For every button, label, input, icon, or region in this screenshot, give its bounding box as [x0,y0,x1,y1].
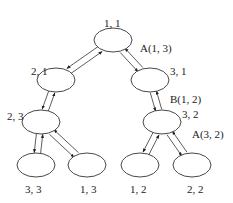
tree-node-n22 [173,153,211,177]
edge-arrow-down-n32-n22 [167,135,182,156]
node-label: 3, 2 [182,109,199,120]
edge-arrow-down-n23-n33 [34,134,36,153]
edge-arrow-down-n11-n31 [120,53,138,72]
edge-arrow-up-n23-n33 [41,134,43,153]
edge-arrow-down-n31-n32 [150,93,155,111]
node-label: 1, 1 [104,18,121,29]
edge-arrow-down-n23-n13 [49,134,74,157]
node-label: 2, 3 [7,111,24,122]
tree-node-n11 [94,28,132,52]
node-label: 1, 3 [80,184,97,195]
tree-node-n32 [143,110,181,134]
node-label: 2, 1 [31,66,48,77]
tree-node-n13 [68,153,106,177]
tree-node-n33 [17,153,55,177]
tree-node-n12 [121,153,159,177]
node-label: 1, 2 [130,184,147,195]
tree-diagram: 1, 12, 13, 12, 33, 23, 31, 31, 22, 2A(1,… [0,0,233,203]
edge-label: A(3, 2) [192,129,224,140]
edge-label: A(1, 3) [140,43,172,54]
tree-node-n31 [131,68,169,92]
node-label: 3, 1 [170,66,187,77]
tree-node-n23 [22,110,60,134]
edges-layer [34,46,187,157]
node-label: 2, 2 [187,184,204,195]
node-label: 3, 3 [25,184,42,195]
edge-arrow-up-n23-n13 [54,130,79,153]
edge-arrow-up-n32-n22 [172,131,187,152]
edge-label: B(1, 2) [170,94,201,105]
edge-arrow-down-n21-n23 [42,91,49,110]
edge-arrow-up-n31-n32 [156,91,161,109]
edge-arrow-up-n21-n23 [48,93,55,112]
